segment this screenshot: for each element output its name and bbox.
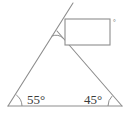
rectangle-corner-degree-mark: ° bbox=[113, 18, 116, 26]
left-angle-arc bbox=[16, 95, 22, 106]
geometry-figure: 55° 45° ° bbox=[0, 0, 129, 113]
left-angle-label: 55° bbox=[27, 92, 45, 107]
right-angle-arc bbox=[108, 96, 112, 106]
right-angle-label: 45° bbox=[84, 92, 102, 107]
triangle-left-side-ray bbox=[8, 3, 73, 106]
figure-canvas: 55° 45° ° bbox=[0, 0, 129, 113]
rectangle-shape bbox=[65, 19, 110, 45]
